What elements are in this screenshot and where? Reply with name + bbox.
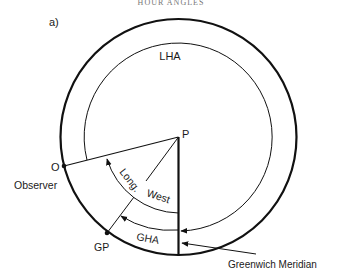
figure-caption: HOUR ANGLES [138,0,205,7]
pole-label: P [182,128,189,140]
observer-line [64,137,179,166]
gp-dot [105,231,110,236]
observer-label: Observer [14,179,58,191]
lha-label: LHA [159,50,181,62]
gp-label: GP [94,241,109,253]
greenwich-pointer [182,243,256,254]
gha-arc [121,216,179,230]
panel-label: a) [49,16,59,28]
gha-label: GHA [136,230,161,246]
greenwich-meridian-label: Greenwich Meridian [228,259,317,270]
observer-point-label: O [51,161,60,173]
hour-angles-diagram: HOUR ANGLES a) LHA P O Observer Long. We… [0,0,343,280]
longitude-label: Long. [117,166,143,194]
west-label: West [145,186,171,205]
observer-dot [62,164,67,169]
gp-line-lower [107,197,134,233]
